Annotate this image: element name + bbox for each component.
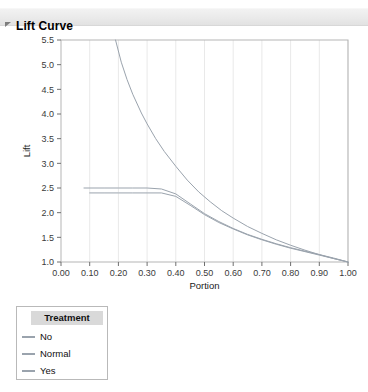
x-tick-label: 0.10 xyxy=(81,268,99,278)
chart-svg: 1.01.52.02.53.03.54.04.55.05.50.000.100.… xyxy=(0,28,368,296)
y-tick-label: 5.5 xyxy=(41,35,54,45)
lift-curve-chart: 1.01.52.02.53.03.54.04.55.05.50.000.100.… xyxy=(0,28,368,296)
y-tick-label: 1.5 xyxy=(41,233,54,243)
legend: Treatment No Normal Yes xyxy=(16,306,108,380)
x-tick-label: 0.30 xyxy=(138,268,156,278)
legend-label-yes: Yes xyxy=(40,365,56,377)
legend-item-normal[interactable]: Normal xyxy=(22,346,71,361)
y-tick-label: 4.5 xyxy=(41,85,54,95)
legend-item-no[interactable]: No xyxy=(22,329,52,344)
y-tick-label: 3.5 xyxy=(41,134,54,144)
triangle-collapse-icon[interactable] xyxy=(5,22,11,27)
axis-ticks xyxy=(57,40,348,266)
x-axis-title: Portion xyxy=(189,280,219,291)
legend-title: Treatment xyxy=(31,311,103,325)
y-tick-label: 4.0 xyxy=(41,109,54,119)
x-tick-label: 0.50 xyxy=(196,268,214,278)
legend-item-yes[interactable]: Yes xyxy=(22,363,56,378)
y-axis-title: Lift xyxy=(21,144,32,157)
y-tick-label: 2.5 xyxy=(41,183,54,193)
x-tick-label: 0.70 xyxy=(253,268,271,278)
legend-line-swatch-normal xyxy=(22,353,35,355)
x-tick-label: 0.40 xyxy=(167,268,185,278)
legend-line-swatch-yes xyxy=(22,370,35,372)
legend-title-band: Treatment xyxy=(31,311,103,325)
data-series xyxy=(84,40,348,262)
y-tick-label: 2.0 xyxy=(41,208,54,218)
legend-label-normal: Normal xyxy=(40,348,71,360)
panel-title-bar[interactable]: Lift Curve xyxy=(0,8,368,26)
axis-tick-labels: 1.01.52.02.53.03.54.04.55.05.50.000.100.… xyxy=(41,35,356,278)
gridlines xyxy=(90,40,348,262)
x-tick-label: 1.00 xyxy=(339,268,357,278)
x-tick-label: 0.60 xyxy=(224,268,242,278)
x-tick-label: 0.20 xyxy=(110,268,128,278)
x-tick-label: 0.00 xyxy=(52,268,70,278)
y-tick-label: 1.0 xyxy=(41,257,54,267)
legend-label-no: No xyxy=(40,331,52,343)
y-tick-label: 3.0 xyxy=(41,159,54,169)
x-tick-label: 0.80 xyxy=(282,268,300,278)
x-tick-label: 0.90 xyxy=(311,268,329,278)
legend-line-swatch-no xyxy=(22,336,35,338)
y-tick-label: 5.0 xyxy=(41,60,54,70)
